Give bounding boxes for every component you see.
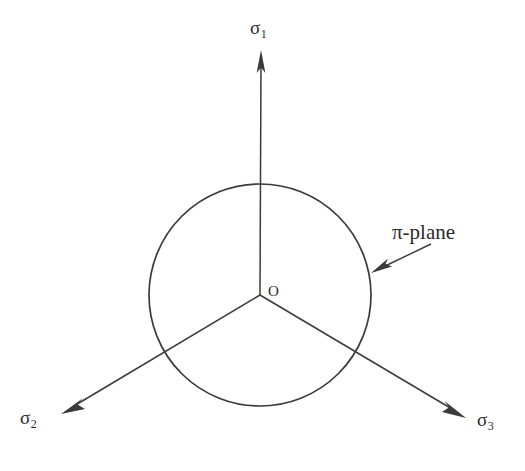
sigma-3-subscript: 3 xyxy=(487,419,494,433)
origin-label: O xyxy=(268,284,279,299)
sigma-3-arrowhead xyxy=(442,401,466,418)
sigma-1-subscript: 1 xyxy=(260,27,267,41)
sigma-2-axis-line xyxy=(74,295,260,406)
pi-plane-leader-line xyxy=(383,244,431,267)
sigma-2-subscript: 2 xyxy=(30,417,37,431)
sigma-3-symbol: σ xyxy=(477,409,487,430)
sigma-3-label: σ3 xyxy=(477,410,494,432)
sigma-2-label: σ2 xyxy=(20,408,37,430)
sigma-2-symbol: σ xyxy=(20,407,30,428)
pi-plane-annotation-label: π-plane xyxy=(392,222,455,243)
pi-plane-leader-arrowhead xyxy=(371,259,392,274)
sigma-1-symbol: σ xyxy=(250,17,260,38)
sigma-3-axis-line xyxy=(260,295,452,409)
sigma-1-axis-line xyxy=(260,62,261,295)
sigma-1-label: σ1 xyxy=(250,18,267,40)
sigma-2-arrowhead xyxy=(61,398,85,414)
pi-plane-figure: σ1 σ2 σ3 O π-plane xyxy=(0,0,525,471)
